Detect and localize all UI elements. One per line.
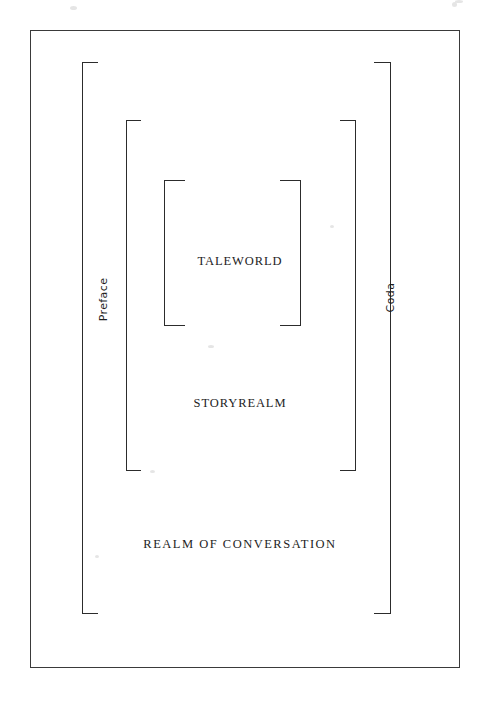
bracket-right-bottom-serif [340, 470, 356, 471]
scan-speckle [330, 225, 334, 228]
label-coda: Coda [384, 258, 397, 338]
label-preface: Preface [97, 260, 110, 340]
bracket-left-bottom-serif [82, 613, 98, 614]
label-taleworld: TALEWORLD [140, 254, 340, 269]
bracket-right-top-serif [374, 62, 391, 63]
bracket-left-top-serif [126, 120, 141, 121]
label-realm-of-conversation: REALM OF CONVERSATION [120, 537, 360, 552]
bracket-left-vertical [164, 180, 165, 325]
figure-canvas: TALEWORLD STORYREALM REALM OF CONVERSATI… [0, 0, 486, 704]
bracket-right-bottom-serif [374, 613, 391, 614]
scan-speckle [150, 470, 155, 473]
bracket-right-vertical [390, 62, 391, 613]
outer-page-border [30, 30, 460, 668]
bracket-left-bottom-serif [164, 325, 185, 326]
bracket-left-bottom-serif [126, 470, 141, 471]
bracket-left-top-serif [82, 62, 98, 63]
bracket-left-top-serif [164, 180, 185, 181]
bracket-right-vertical [355, 120, 356, 470]
bracket-right-top-serif [340, 120, 356, 121]
bracket-right-top-serif [280, 180, 301, 181]
bracket-left-vertical [126, 120, 127, 470]
bracket-left-vertical [82, 62, 83, 613]
scan-speckle [95, 555, 99, 558]
scan-speckle [208, 345, 214, 348]
scan-speckle [70, 6, 77, 10]
bracket-right-bottom-serif [280, 325, 301, 326]
label-storyrealm: STORYREALM [140, 396, 340, 411]
scan-speckle [455, 0, 463, 3]
bracket-right-vertical [300, 180, 301, 325]
